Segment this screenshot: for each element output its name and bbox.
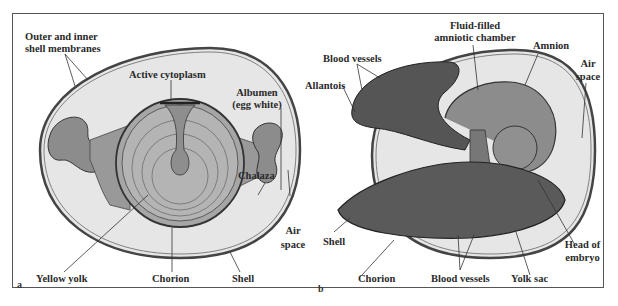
label-head-of-embryo-line2: embryo <box>555 252 610 264</box>
panel-b-egg <box>338 50 595 258</box>
label-active-cytoplasm: Active cytoplasm <box>129 69 206 81</box>
label-outer-inner-membranes-line1: Outer and inner <box>25 31 98 43</box>
label-air-space-b-line1: Air <box>573 58 603 70</box>
label-chalaza: Chalaza <box>238 170 275 182</box>
label-albumen-line1: Albumen <box>222 87 292 99</box>
label-head-of-embryo-line1: Head of <box>555 239 610 251</box>
panel-letter-b: b <box>318 283 324 294</box>
label-chorion-b: Chorion <box>358 273 395 285</box>
panel-letter-a: a <box>17 279 22 290</box>
label-allantois: Allantois <box>305 80 345 92</box>
label-air-space-a-line1: Air <box>278 225 308 237</box>
label-amnion: Amnion <box>533 40 569 52</box>
label-air-space-b-line2: space <box>568 71 608 83</box>
label-blood-vessels-top: Blood vessels <box>323 53 382 65</box>
label-air-space-a-line2: space <box>273 239 313 251</box>
label-fluid-filled-line1: Fluid-filled <box>430 20 520 32</box>
label-albumen-line2: (egg white) <box>222 99 292 111</box>
label-yellow-yolk: Yellow yolk <box>36 273 88 285</box>
label-fluid-filled-line2: amniotic chamber <box>420 32 530 44</box>
label-shell-b: Shell <box>323 236 345 248</box>
label-shell-a: Shell <box>232 273 254 285</box>
label-yolk-sac: Yolk sac <box>511 273 548 285</box>
label-blood-vessels-bottom: Blood vessels <box>431 273 490 285</box>
label-outer-inner-membranes-line2: shell membranes <box>25 43 101 55</box>
label-chorion-a: Chorion <box>152 273 189 285</box>
